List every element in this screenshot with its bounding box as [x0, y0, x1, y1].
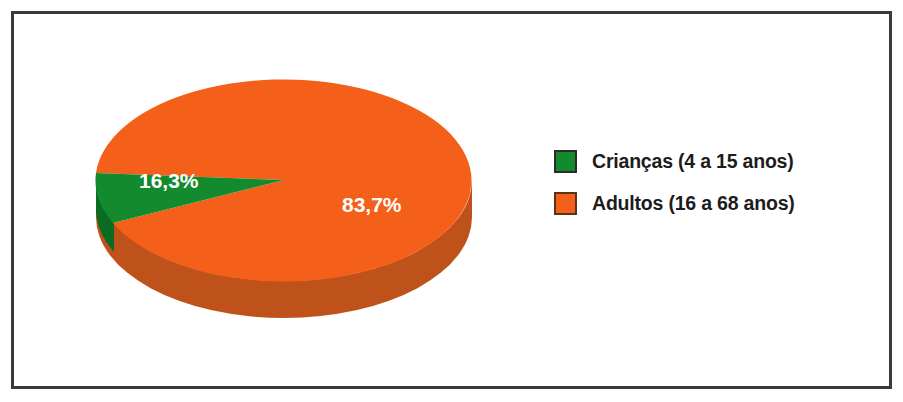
pie-label-adultos: 83,7% [342, 193, 402, 216]
legend-label-criancas: Crianças (4 a 15 anos) [592, 150, 794, 173]
chart-legend: Crianças (4 a 15 anos) Adultos (16 a 68 … [554, 140, 854, 224]
legend-item-criancas[interactable]: Crianças (4 a 15 anos) [554, 140, 854, 182]
chart-frame: 16,3% 83,7% Crianças (4 a 15 anos) Adult… [11, 11, 892, 389]
pie-chart-svg: 16,3% 83,7% [74, 52, 494, 362]
pie-label-criancas: 16,3% [139, 169, 199, 192]
legend-swatch-criancas [554, 150, 577, 173]
legend-item-adultos[interactable]: Adultos (16 a 68 anos) [554, 182, 854, 224]
legend-swatch-adultos [554, 192, 577, 215]
chart-body: 16,3% 83,7% Crianças (4 a 15 anos) Adult… [14, 14, 889, 386]
pie-chart: 16,3% 83,7% [74, 52, 494, 362]
legend-label-adultos: Adultos (16 a 68 anos) [592, 192, 795, 215]
